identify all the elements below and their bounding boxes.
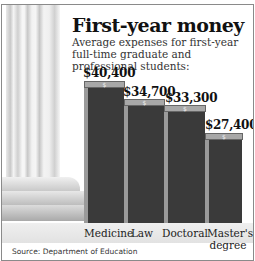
bar-law: $ xyxy=(124,106,164,223)
bar-value-label: $27,400 xyxy=(205,118,254,132)
category-label: Medicine xyxy=(84,227,126,239)
column-base-step xyxy=(2,191,88,205)
category-label: Doctoral xyxy=(162,227,206,239)
chart-title: First-year money xyxy=(72,14,244,36)
dollar-cap-icon: $ xyxy=(84,81,125,88)
column-base-step xyxy=(2,205,97,221)
source-note: Source: Department of Education xyxy=(12,247,137,256)
dollar-cap-icon: $ xyxy=(124,99,165,106)
column-base-step xyxy=(2,177,80,191)
dollar-cap-icon: $ xyxy=(205,133,243,140)
dollar-cap-icon: $ xyxy=(164,105,206,112)
bar-doctoral: $ xyxy=(164,112,205,223)
bar-value-label: $33,300 xyxy=(165,91,217,105)
bar-medicine: $ xyxy=(84,88,124,223)
category-label: Law xyxy=(128,227,156,239)
bar-value-label: $40,400 xyxy=(83,66,135,80)
chart-frame: First-year money Average expenses for fi… xyxy=(1,4,254,261)
column-illustration xyxy=(2,5,70,225)
category-label: Master's degree xyxy=(207,227,249,251)
bar-masters: $ xyxy=(205,140,242,223)
column-shaft xyxy=(6,5,60,183)
